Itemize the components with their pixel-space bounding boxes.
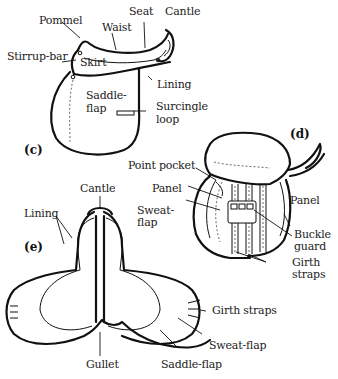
- label-skirt: Skirt: [80, 57, 106, 69]
- label-saddle-flap-line1: Saddle-: [86, 90, 127, 102]
- label-sweat-flap-underside: Sweat-flap: [209, 340, 266, 352]
- label-girth-straps-d-line2: straps: [292, 269, 325, 281]
- label-lining-underside: Lining: [24, 208, 58, 220]
- label-seat: Seat: [129, 6, 153, 18]
- label-panel-left: Panel: [152, 183, 182, 195]
- label-cantle: Cantle: [165, 6, 200, 18]
- label-saddle-flap-underside: Saddle-flap: [161, 359, 222, 371]
- label-buckle-guard-line2: guard: [294, 241, 326, 253]
- label-panel-right: Panel: [290, 195, 320, 207]
- panel-tag-e: (e): [24, 240, 43, 254]
- label-gullet: Gullet: [86, 359, 119, 371]
- panel-tag-c: (c): [24, 143, 43, 157]
- label-surcingle-loop-line1: Surcingle: [156, 101, 208, 113]
- saddle-underside-view: [7, 196, 211, 356]
- label-girth-straps-underside: Girth straps: [212, 305, 277, 317]
- label-lining: Lining: [157, 79, 191, 91]
- label-surcingle-loop-line2: loop: [156, 114, 179, 126]
- saddle-anatomy-diagram: Pommel Waist Seat Cantle Stirrup-bar Ski…: [0, 0, 338, 379]
- label-sweat-flap-d-line2: flap: [137, 217, 157, 229]
- label-saddle-flap-line2: flap: [86, 103, 106, 115]
- label-waist: Waist: [102, 22, 132, 34]
- label-pommel: Pommel: [39, 15, 82, 27]
- label-cantle-underside: Cantle: [80, 183, 115, 195]
- label-point-pocket: Point pocket: [128, 160, 195, 172]
- panel-tag-d: (d): [290, 127, 310, 141]
- label-stirrup-bar: Stirrup-bar: [7, 51, 68, 63]
